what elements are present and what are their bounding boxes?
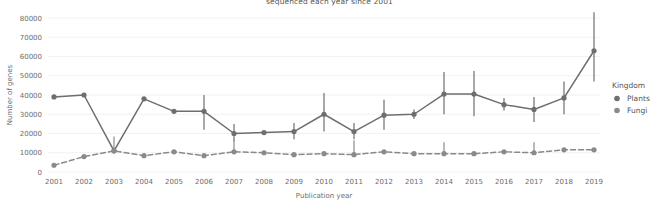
x-tick-label: 2011 — [345, 178, 363, 186]
chart-root: sequenced each year since 2001 010000200… — [0, 0, 659, 204]
data-point — [321, 151, 326, 156]
legend-label-fungi[interactable]: Fungi — [627, 106, 647, 115]
y-tick-label: 10000 — [20, 149, 42, 157]
data-point — [561, 147, 566, 152]
data-point — [381, 149, 386, 154]
x-tick-label: 2008 — [255, 178, 273, 186]
series-fungi — [51, 136, 596, 167]
x-tick-label: 2018 — [555, 178, 573, 186]
data-point — [591, 48, 596, 53]
data-point — [81, 154, 86, 159]
data-point — [111, 148, 116, 153]
data-point — [531, 150, 536, 155]
y-tick-label: 0 — [38, 169, 42, 177]
x-tick-label: 2017 — [525, 178, 543, 186]
x-tick-label: 2006 — [195, 178, 213, 186]
data-point — [441, 91, 446, 96]
y-tick-label: 60000 — [20, 53, 42, 61]
data-point — [291, 129, 296, 134]
data-point — [471, 91, 476, 96]
legend: KingdomPlantsFungi — [612, 81, 650, 115]
x-tick-label: 2019 — [585, 178, 603, 186]
legend-label-plants[interactable]: Plants — [627, 94, 650, 103]
data-point — [231, 149, 236, 154]
data-series-layer — [51, 12, 596, 168]
x-tick-label: 2012 — [375, 178, 393, 186]
data-point — [441, 151, 446, 156]
x-tick-label: 2016 — [495, 178, 513, 186]
x-tick-label: 2005 — [165, 178, 183, 186]
x-tick-label: 2010 — [315, 178, 333, 186]
legend-title: Kingdom — [612, 81, 645, 90]
y-tick-label: 20000 — [20, 130, 42, 138]
x-tick-label: 2004 — [135, 178, 153, 186]
y-tick-label: 80000 — [20, 15, 42, 23]
chart-plot-area: 0100002000030000400005000060000700008000… — [0, 0, 659, 204]
data-point — [141, 153, 146, 158]
y-axis-tick-labels: 0100002000030000400005000060000700008000… — [20, 15, 42, 177]
x-tick-label: 2015 — [465, 178, 483, 186]
x-tick-label: 2003 — [105, 178, 123, 186]
data-point — [381, 113, 386, 118]
data-point — [291, 152, 296, 157]
y-tick-label: 30000 — [20, 111, 42, 119]
x-tick-label: 2009 — [285, 178, 303, 186]
x-tick-label: 2014 — [435, 178, 453, 186]
x-axis-tick-labels: 2001200220032004200520062007200820092010… — [45, 178, 603, 186]
data-point — [81, 92, 86, 97]
data-point — [321, 112, 326, 117]
data-point — [411, 112, 416, 117]
data-point — [171, 109, 176, 114]
data-point — [351, 152, 356, 157]
data-point — [171, 149, 176, 154]
y-axis-label: Number of genes — [6, 64, 14, 125]
data-point — [51, 94, 56, 99]
data-point — [261, 150, 266, 155]
data-point — [411, 151, 416, 156]
data-point — [261, 130, 266, 135]
data-point — [591, 147, 596, 152]
data-point — [501, 102, 506, 107]
data-point — [561, 95, 566, 100]
y-tick-label: 70000 — [20, 34, 42, 42]
series-plants — [51, 12, 596, 153]
legend-marker-fungi[interactable] — [614, 108, 620, 114]
data-point — [51, 163, 56, 168]
y-tick-label: 40000 — [20, 92, 42, 100]
x-tick-label: 2007 — [225, 178, 243, 186]
data-point — [201, 153, 206, 158]
data-point — [351, 129, 356, 134]
x-tick-label: 2002 — [75, 178, 93, 186]
data-point — [201, 109, 206, 114]
x-tick-label: 2001 — [45, 178, 63, 186]
data-point — [531, 107, 536, 112]
data-point — [231, 131, 236, 136]
x-tick-label: 2013 — [405, 178, 423, 186]
x-axis-label: Publication year — [296, 192, 352, 200]
legend-marker-plants[interactable] — [614, 96, 620, 102]
data-point — [501, 149, 506, 154]
data-point — [141, 96, 146, 101]
y-tick-label: 50000 — [20, 72, 42, 80]
data-point — [471, 151, 476, 156]
